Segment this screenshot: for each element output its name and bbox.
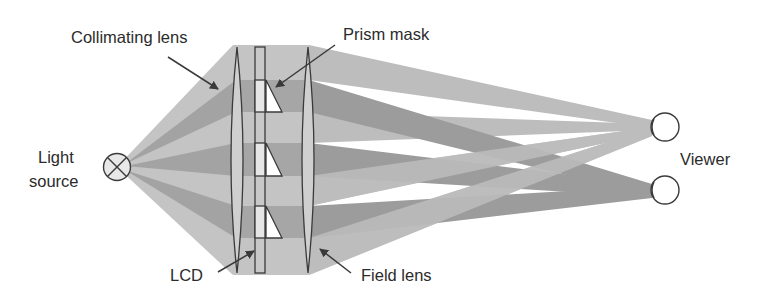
viewer-eyes [651, 113, 679, 204]
label-collimating-lens: Collimating lens [71, 28, 187, 46]
lcd-panel [255, 47, 265, 273]
lower-eye-icon [651, 176, 679, 204]
lcd-cell [255, 80, 265, 112]
label-lcd: LCD [170, 266, 203, 284]
label-light-source-line1: Light [38, 148, 74, 166]
label-viewer: Viewer [680, 150, 731, 168]
label-prism-mask: Prism mask [343, 25, 430, 43]
lcd-cell [255, 143, 265, 176]
source-cone [117, 45, 238, 275]
label-light-source-line2: source [29, 172, 79, 190]
upper-eye-icon [651, 113, 679, 141]
label-field-lens: Field lens [361, 266, 432, 284]
optical-diagram: Collimating lens Prism mask Light source… [0, 0, 769, 307]
light-source-icon [104, 154, 131, 181]
lcd-cell [255, 206, 265, 238]
